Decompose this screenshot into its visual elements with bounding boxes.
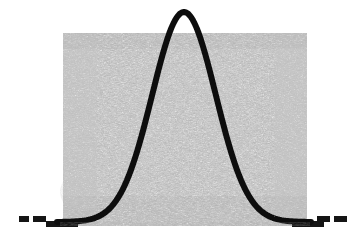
left-dash-1 (19, 216, 29, 222)
right-dash-1 (317, 216, 330, 222)
bell-curve-figure (0, 0, 362, 246)
shaded-region (63, 33, 307, 226)
left-dash-2 (33, 216, 46, 222)
right-dash-2 (334, 216, 347, 222)
bell-curve-canvas (0, 0, 362, 246)
